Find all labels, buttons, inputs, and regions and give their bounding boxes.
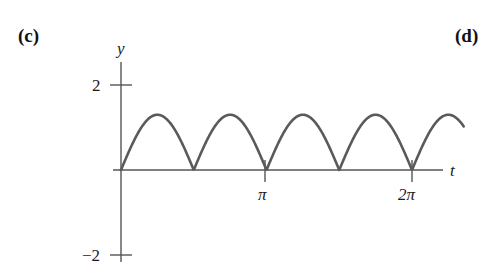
y-tick-label-minus-2: −2 — [82, 247, 100, 264]
axis-group — [113, 62, 443, 262]
plot-canvas — [0, 0, 493, 278]
t-axis-label: t — [450, 162, 455, 179]
y-tick-label-2: 2 — [92, 77, 101, 94]
x-tick-label-pi: π — [258, 186, 267, 203]
y-axis-label: y — [117, 40, 125, 57]
figure-container: (c) (d) y t 2 −2 π 2π — [0, 0, 493, 278]
x-tick-label-two-pi: 2π — [398, 186, 415, 203]
